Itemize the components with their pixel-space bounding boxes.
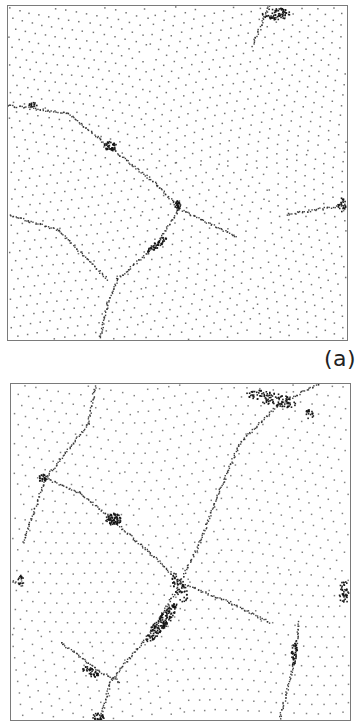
particle-lattice-plot-a (8, 6, 347, 340)
particle-lattice-plot-b (11, 384, 350, 720)
figure-panel-b (10, 383, 351, 721)
figure-panel-a (7, 5, 348, 341)
panel-label-a: (a) (324, 348, 355, 370)
